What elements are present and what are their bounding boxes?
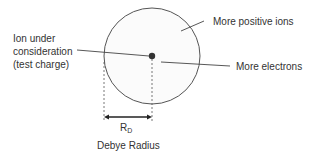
test-charge-dot [149, 53, 155, 59]
debye-radius-caption: Debye Radius [97, 140, 160, 151]
debye-diagram: Ion under consideration (test charge) Mo… [0, 0, 314, 155]
radius-symbol: R [120, 122, 127, 133]
ion-label-line3: (test charge) [13, 59, 69, 70]
radius-arrow-left-head [104, 115, 109, 120]
radius-subscript: D [127, 127, 132, 134]
electrons-label: More electrons [236, 61, 302, 72]
ion-label-line1: Ion under [13, 33, 56, 44]
radius-arrow-right-head [147, 115, 152, 120]
debye-radius-symbol: RD [120, 122, 132, 134]
positive-ions-label: More positive ions [213, 16, 294, 27]
ion-label-line2: consideration [13, 46, 72, 57]
